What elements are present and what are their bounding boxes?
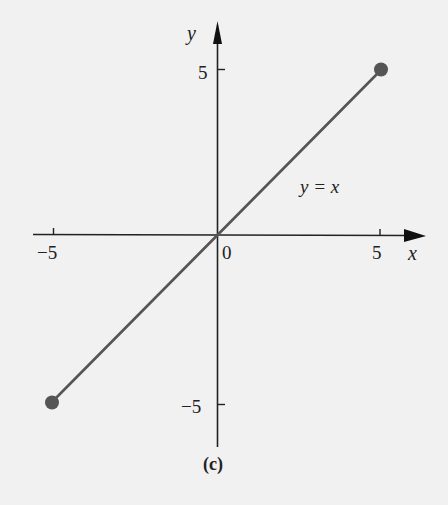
endpoint-upper-right: [374, 63, 388, 77]
x-tick-label-5: 5: [372, 242, 382, 263]
origin-label: 0: [222, 242, 232, 263]
endpoint-lower-left: [45, 396, 59, 410]
y-tick-label-neg5: −5: [181, 396, 201, 417]
x-tick-label-neg5: −5: [37, 242, 57, 263]
y-tick-label-5: 5: [198, 62, 208, 83]
figure-caption: (c): [203, 454, 223, 475]
y-axis-arrow-icon: [213, 21, 222, 44]
x-axis-arrow-icon: [404, 229, 426, 242]
graph-figure: −5 5 x 5 −5 y 0 y = x (c): [0, 0, 448, 505]
curve-label: y = x: [298, 176, 340, 197]
x-axis-label: x: [407, 242, 417, 264]
y-axis-label: y: [185, 22, 196, 45]
